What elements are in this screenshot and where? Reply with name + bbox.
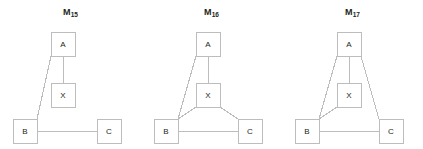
edge-x-c <box>220 107 238 119</box>
graph-canvas-m16: AXBC <box>141 0 282 149</box>
graph-figure: M15AXBCM16AXBCM17AXBC <box>0 0 423 149</box>
node-a: A <box>338 33 362 57</box>
edge-a-b <box>37 56 51 119</box>
node-label-b: B <box>304 127 309 136</box>
node-a: A <box>197 33 221 57</box>
node-x: X <box>338 84 362 108</box>
node-label-a: A <box>205 40 211 49</box>
node-label-x: X <box>60 91 66 100</box>
graph-panel-m15: M15AXBC <box>0 0 141 149</box>
node-label-b: B <box>163 127 168 136</box>
node-x: X <box>52 84 76 108</box>
node-label-a: A <box>60 40 66 49</box>
graph-canvas-m15: AXBC <box>0 0 141 149</box>
node-label-a: A <box>346 40 352 49</box>
node-x: X <box>197 84 221 108</box>
node-label-x: X <box>205 91 211 100</box>
node-b: B <box>296 120 320 144</box>
node-label-c: C <box>247 127 253 136</box>
node-b: B <box>155 120 179 144</box>
node-c: C <box>98 120 122 144</box>
node-c: C <box>239 120 263 144</box>
node-label-x: X <box>346 91 352 100</box>
edge-a-b <box>319 56 337 119</box>
node-a: A <box>52 33 76 57</box>
graph-canvas-m17: AXBC <box>282 0 423 149</box>
node-c: C <box>380 120 404 144</box>
edge-a-b <box>178 56 196 119</box>
edge-a-c <box>361 56 379 119</box>
node-label-c: C <box>388 127 394 136</box>
graph-panel-m16: M16AXBC <box>141 0 282 149</box>
graph-panel-m17: M17AXBC <box>282 0 423 149</box>
node-b: B <box>14 120 38 144</box>
node-label-c: C <box>106 127 112 136</box>
node-label-b: B <box>22 127 27 136</box>
